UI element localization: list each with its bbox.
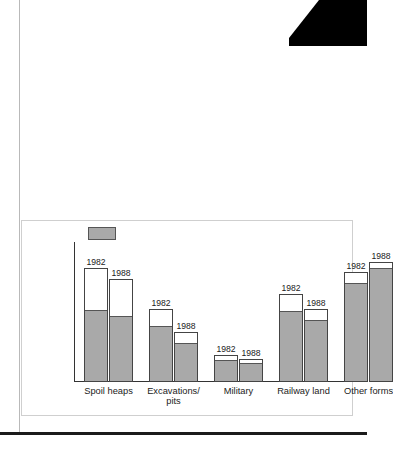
bar — [369, 262, 393, 382]
bar-year-label: 1988 — [306, 298, 325, 308]
x-category-label: Military — [224, 386, 253, 396]
bar-reclamation-segment — [240, 363, 262, 381]
bar — [344, 272, 368, 382]
corner-wedge — [289, 0, 367, 46]
bar-reclamation-segment — [345, 283, 367, 381]
bar-year-label: 1982 — [281, 283, 300, 293]
bar-reclamation-segment — [305, 320, 327, 381]
bar-year-label: 1988 — [371, 251, 390, 261]
bar-year-label: 1988 — [176, 321, 195, 331]
chart-container: 19821988Spoil heaps19821988Excavations/p… — [21, 220, 353, 416]
bar-reclamation-segment — [175, 343, 197, 381]
bar — [174, 332, 198, 382]
x-category-label: Railway land — [277, 386, 330, 396]
x-category-label: Excavations/pits — [147, 386, 200, 406]
bar-reclamation-segment — [370, 268, 392, 381]
bar-year-label: 1982 — [346, 261, 365, 271]
bar-reclamation-segment — [215, 360, 237, 381]
bar-year-label: 1982 — [216, 344, 235, 354]
chart-legend — [88, 227, 123, 240]
x-category-label: Other forms — [344, 386, 393, 396]
y-axis — [74, 242, 75, 382]
bar — [239, 359, 263, 382]
bar — [84, 268, 108, 382]
bar-reclamation-segment — [110, 316, 132, 381]
chart-plot-area: 19821988Spoil heaps19821988Excavations/p… — [74, 242, 346, 382]
bar-year-label: 1982 — [86, 257, 105, 267]
bar — [214, 355, 238, 382]
bar-year-label: 1988 — [111, 268, 130, 278]
bar-reclamation-segment — [280, 311, 302, 381]
legend-swatch-icon — [88, 227, 116, 240]
header — [19, 0, 367, 26]
bar-year-label: 1988 — [241, 348, 260, 358]
bar-reclamation-segment — [85, 310, 107, 381]
bottom-rule — [0, 432, 367, 435]
x-category-label: Spoil heaps — [84, 386, 133, 396]
bar — [304, 309, 328, 382]
bar-reclamation-segment — [150, 326, 172, 381]
bar — [279, 294, 303, 382]
group-list — [30, 57, 352, 62]
black-triangle-shape — [289, 0, 367, 46]
bar-year-label: 1982 — [151, 298, 170, 308]
bar — [149, 309, 173, 382]
bar — [109, 279, 133, 382]
